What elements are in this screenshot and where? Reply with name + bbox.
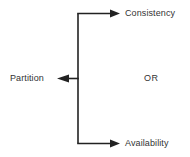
arrowhead-partition-icon <box>57 75 69 83</box>
node-label-availability: Availability <box>125 138 169 149</box>
arrowhead-consistency-icon <box>110 10 120 18</box>
node-label-consistency: Consistency <box>125 8 175 19</box>
arrowhead-availability-icon <box>110 140 120 148</box>
node-label-partition: Partition <box>10 73 44 84</box>
cap-theorem-diagram: Consistency Availability Partition OR <box>0 0 190 157</box>
connector-label-or: OR <box>144 73 158 84</box>
